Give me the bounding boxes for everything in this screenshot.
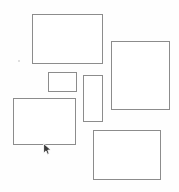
speck-left bbox=[18, 60, 20, 62]
rect-bottom-right[interactable] bbox=[93, 130, 161, 180]
drawing-canvas[interactable] bbox=[0, 0, 179, 192]
rect-small-middle[interactable] bbox=[48, 72, 77, 92]
rect-right-large[interactable] bbox=[111, 41, 170, 110]
rect-top-left[interactable] bbox=[32, 14, 103, 64]
rect-vertical-middle[interactable] bbox=[83, 75, 103, 122]
rect-bottom-left[interactable] bbox=[13, 98, 76, 145]
